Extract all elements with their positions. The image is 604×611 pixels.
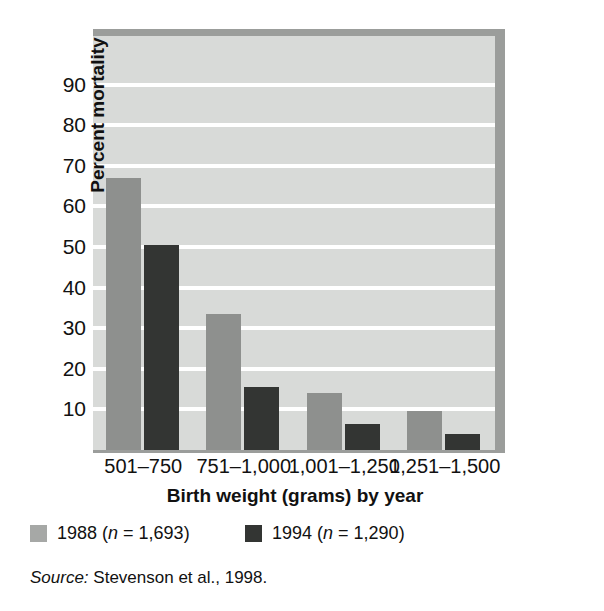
legend-item-1988[interactable]: 1988 (n = 1,693) [30,521,190,545]
legend-label: 1988 (n = 1,693) [57,523,190,544]
gridline [93,204,495,208]
legend-swatch-icon [245,525,262,542]
y-tick-label: 80 [32,114,86,135]
plot-area [93,36,495,450]
bar-1994-751_1_000 [244,387,279,450]
y-tick-label: 30 [32,317,86,338]
bar-1988-751_1_000 [206,314,241,450]
bar-1994-1_251_1_500 [445,434,480,450]
legend-item-1994[interactable]: 1994 (n = 1,290) [245,521,405,545]
x-axis-ticks: 501–750751–1,0001,001–1,2501,251–1,500 [93,454,495,482]
gridline [93,123,495,127]
chart-legend: 1988 (n = 1,693)1994 (n = 1,290) [30,521,460,547]
source-note: Source: Stevenson et al., 1998. [30,568,267,588]
legend-label: 1994 (n = 1,290) [272,523,405,544]
y-tick-label: 50 [32,236,86,257]
bar-chart-figure: 102030405060708090 Percent mortality 501… [0,0,604,611]
y-tick-label: 20 [32,358,86,379]
bar-1988-1_001_1_250 [307,393,342,450]
gridline [93,83,495,87]
y-tick-label: 10 [32,398,86,419]
bar-1994-501_750 [144,245,179,450]
y-axis-title: Percent mortality [87,0,109,245]
y-tick-label: 70 [32,155,86,176]
source-text: Stevenson et al., 1998. [89,568,268,587]
source-keyword: Source: [30,568,89,587]
bar-1988-1_251_1_500 [407,411,442,450]
y-tick-label: 40 [32,277,86,298]
bar-1988-501_750 [106,178,141,450]
bar-1994-1_001_1_250 [345,424,380,450]
gridline [93,164,495,168]
y-tick-label: 60 [32,195,86,216]
x-tick-label: 1,251–1,500 [381,454,510,478]
x-axis-title: Birth weight (grams) by year [60,485,530,507]
y-axis-ticks: 102030405060708090 [20,36,86,450]
legend-swatch-icon [30,525,47,542]
y-tick-label: 90 [32,74,86,95]
